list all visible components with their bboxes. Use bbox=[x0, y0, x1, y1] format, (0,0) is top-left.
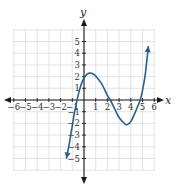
x-tick-label: 6 bbox=[151, 102, 156, 112]
y-axis bbox=[81, 19, 87, 184]
y-tick-label: 2 bbox=[75, 72, 80, 82]
y-axis-up-arrow-icon bbox=[81, 19, 87, 26]
y-tick-label: 4 bbox=[75, 48, 80, 58]
x-tick-label: −6 bbox=[8, 102, 21, 112]
y-tick-label: 3 bbox=[75, 60, 80, 70]
x-tick-label: −5 bbox=[19, 102, 32, 112]
x-tick-label: 4 bbox=[128, 102, 133, 112]
x-tick-label: −2 bbox=[54, 102, 67, 112]
x-axis-label: x bbox=[165, 94, 172, 107]
coordinate-plane-chart: −6−5−4−3−2−1123456 −5−4−3−2−112345 x y bbox=[0, 0, 175, 189]
x-tick-label: 1 bbox=[93, 102, 98, 112]
y-tick-label: 5 bbox=[75, 37, 80, 47]
y-tick-label: −3 bbox=[67, 130, 80, 140]
x-tick-label: 3 bbox=[116, 102, 121, 112]
x-tick-label: −4 bbox=[31, 102, 44, 112]
x-tick-label: −3 bbox=[43, 102, 56, 112]
x-tick-label: 2 bbox=[105, 102, 110, 112]
y-tick-label: −5 bbox=[67, 154, 80, 164]
y-axis-label: y bbox=[79, 6, 87, 19]
x-tick-label: 5 bbox=[140, 102, 145, 112]
y-axis-down-arrow-icon bbox=[81, 177, 87, 184]
x-axis-right-arrow-icon bbox=[157, 97, 164, 103]
